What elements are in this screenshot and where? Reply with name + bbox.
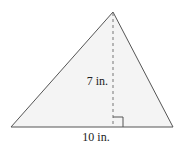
height-label: 7 in. bbox=[87, 74, 108, 88]
triangle-diagram: 7 in. 10 in. bbox=[0, 0, 182, 145]
triangle bbox=[11, 12, 173, 127]
base-label: 10 in. bbox=[82, 130, 109, 144]
